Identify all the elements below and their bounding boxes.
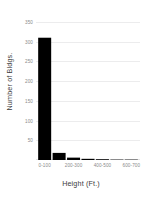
x-axis-tick-labels: 0-100200-300400-500600-700 [36, 163, 140, 175]
bar-series [36, 18, 140, 160]
y-axis-tick-label: 350 [25, 19, 33, 24]
y-axis-tick-label: 200 [25, 79, 33, 84]
y-axis-tick-label: 50 [28, 138, 33, 143]
bar [67, 158, 80, 160]
bar [38, 38, 51, 160]
y-axis-tick-label: 100 [25, 118, 33, 123]
bar [82, 159, 95, 160]
chart-figure: Number of Bldgs. 50100150200250300350 0-… [0, 0, 147, 200]
x-axis-title: Height (Ft.) [20, 179, 142, 188]
bar [53, 153, 66, 160]
y-axis-tick-label: 250 [25, 59, 33, 64]
x-axis-tick-label: 400-500 [94, 163, 112, 168]
plot-area [36, 18, 140, 160]
y-axis-tick-labels: 50100150200250300350 [14, 0, 35, 200]
bar-series-svg [36, 18, 140, 160]
y-axis-tick-label: 300 [25, 39, 33, 44]
x-axis-tick-label: 0-100 [39, 163, 51, 168]
bar [96, 159, 109, 160]
x-axis-tick-label: 600-700 [123, 163, 141, 168]
x-axis-tick-label: 200-300 [65, 163, 83, 168]
y-axis-tick-label: 150 [25, 98, 33, 103]
